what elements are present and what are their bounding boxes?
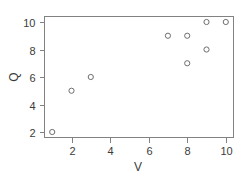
x-tick-label: 2 bbox=[69, 145, 75, 157]
x-tick-label: 4 bbox=[107, 145, 113, 157]
y-tick-label: 2 bbox=[29, 127, 35, 139]
y-tick-label: 6 bbox=[29, 72, 35, 84]
y-axis-title: Q bbox=[7, 72, 21, 81]
y-tick-label: 4 bbox=[29, 100, 35, 112]
x-tick-label: 8 bbox=[184, 145, 190, 157]
y-tick-label: 10 bbox=[23, 17, 35, 29]
x-tick-label: 10 bbox=[220, 145, 232, 157]
x-tick-label: 6 bbox=[146, 145, 152, 157]
chart-canvas: 246810 246810 V Q bbox=[0, 0, 240, 181]
chart-background bbox=[0, 0, 240, 181]
scatter-plot-figure: 246810 246810 V Q bbox=[0, 0, 240, 181]
x-axis-title: V bbox=[134, 160, 142, 174]
y-tick-label: 8 bbox=[29, 45, 35, 57]
